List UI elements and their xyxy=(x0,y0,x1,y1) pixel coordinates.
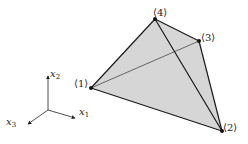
axis-label-x3: x3 xyxy=(6,116,16,129)
vertex-label-1: ⟨1⟩ xyxy=(74,78,88,89)
vertex-1 xyxy=(89,86,93,90)
tetrahedron-diagram: ⟨1⟩ ⟨2⟩ ⟨3⟩ ⟨4⟩ x2 x1 x3 xyxy=(0,0,248,144)
axis-x3 xyxy=(28,110,48,124)
vertex-label-4: ⟨4⟩ xyxy=(153,7,167,18)
vertex-label-2: ⟨2⟩ xyxy=(223,122,237,133)
axis-x1 xyxy=(48,110,75,118)
vertex-label-3: ⟨3⟩ xyxy=(201,32,215,43)
axis-label-x1: x1 xyxy=(79,106,89,119)
axis-label-x2: x2 xyxy=(50,68,60,81)
